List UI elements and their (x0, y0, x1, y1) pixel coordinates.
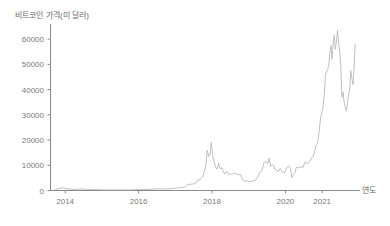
bitcoin-price-chart: 비트코인 가격(미 달러) 연도 01000020000300004000050… (0, 0, 390, 226)
tick-marks (48, 39, 323, 193)
plot-area (0, 0, 390, 226)
price-line-series (54, 30, 355, 190)
